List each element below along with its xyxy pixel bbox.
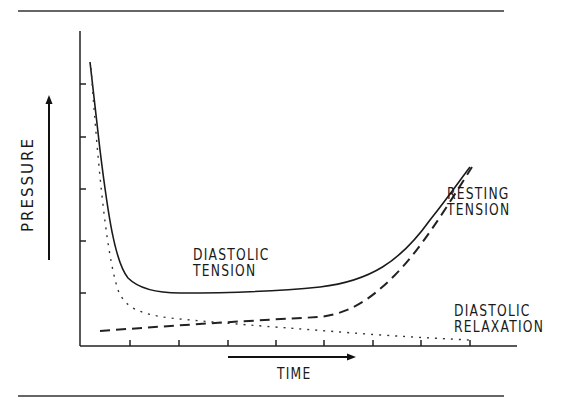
resting-tension-label: RESTING TENSION xyxy=(447,186,510,218)
x-axis-label: TIME xyxy=(277,366,311,382)
diastolic-relaxation-label: DIASTOLIC RELAXATION xyxy=(454,303,544,335)
diastolic-tension-label: DIASTOLIC TENSION xyxy=(193,247,270,279)
resting-tension-curve xyxy=(100,167,472,331)
time-arrow-icon xyxy=(228,354,356,361)
y-axis-label: PRESSURE xyxy=(19,137,37,232)
diastolic-tension-curve xyxy=(90,62,470,293)
pressure-arrow-icon xyxy=(46,95,53,260)
diastolic-relaxation-curve xyxy=(91,68,470,340)
